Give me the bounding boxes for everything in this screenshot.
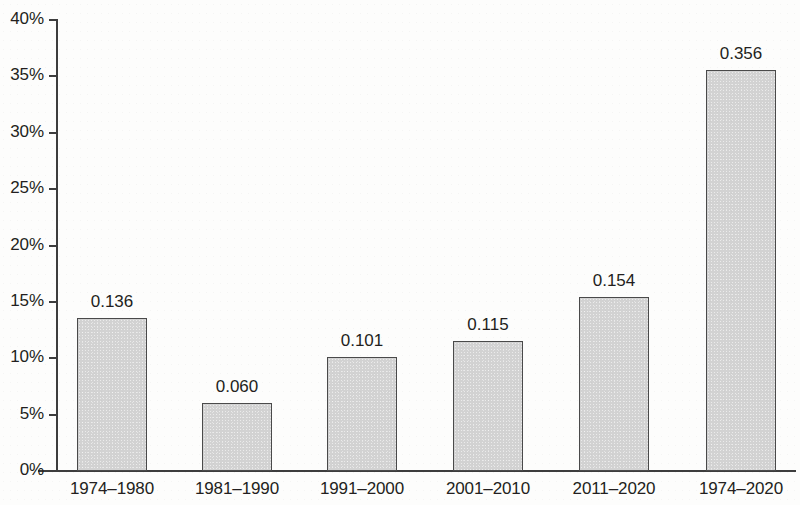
y-axis-tick-label: 15% xyxy=(0,291,44,311)
y-axis-tick-label: 0% xyxy=(0,460,44,480)
y-axis-tick xyxy=(49,301,57,303)
x-axis-category-label: 1974–2020 xyxy=(681,479,800,499)
y-axis-tick xyxy=(49,245,57,247)
y-axis-tick xyxy=(49,470,57,472)
x-axis-category-label: 1991–2000 xyxy=(302,479,422,499)
y-axis-tick-label: 20% xyxy=(0,235,44,255)
y-axis-tick-label: 30% xyxy=(0,122,44,142)
y-axis-tick xyxy=(49,357,57,359)
bar-value-label: 0.060 xyxy=(187,377,287,397)
bar xyxy=(202,403,272,471)
bar xyxy=(453,341,523,471)
x-axis-line xyxy=(38,470,796,472)
y-axis-tick-label: 10% xyxy=(0,347,44,367)
y-axis-tick-label: 25% xyxy=(0,178,44,198)
bar-value-label: 0.356 xyxy=(691,44,791,64)
bar-chart: 0%5%10%15%20%25%30%35%40% 0.1360.0600.10… xyxy=(0,0,800,505)
bar xyxy=(77,318,147,471)
bar xyxy=(579,297,649,471)
y-axis-tick xyxy=(49,19,57,21)
y-axis-tick xyxy=(49,75,57,77)
y-axis-tick-label: 5% xyxy=(0,404,44,424)
bar-value-label: 0.115 xyxy=(438,315,538,335)
x-axis-category-label: 2011–2020 xyxy=(554,479,674,499)
bar-value-label: 0.154 xyxy=(564,271,664,291)
y-axis-tick xyxy=(49,414,57,416)
y-axis-tick-label: 40% xyxy=(0,9,44,29)
y-axis-tick xyxy=(49,132,57,134)
bar xyxy=(706,70,776,471)
bar-value-label: 0.136 xyxy=(62,292,162,312)
x-axis-category-label: 1974–1980 xyxy=(52,479,172,499)
plot-area: 0%5%10%15%20%25%30%35%40% 0.1360.0600.10… xyxy=(0,0,800,505)
y-axis-tick xyxy=(49,188,57,190)
bar xyxy=(327,357,397,471)
bar-value-label: 0.101 xyxy=(312,331,412,351)
x-axis-category-label: 1981–1990 xyxy=(177,479,297,499)
x-axis-category-label: 2001–2010 xyxy=(428,479,548,499)
y-axis-tick-label: 35% xyxy=(0,65,44,85)
